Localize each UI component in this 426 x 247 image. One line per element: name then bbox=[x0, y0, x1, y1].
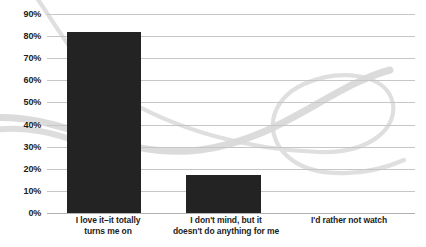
gridline-baseline-0 bbox=[47, 213, 415, 214]
y-tick-label-30: 30% bbox=[0, 143, 41, 152]
bar-category-1 bbox=[67, 32, 141, 213]
y-tick-label-10: 10% bbox=[0, 187, 41, 196]
y-tick-label-80: 80% bbox=[0, 32, 41, 41]
x-axis: I love it–it totally turns me on I don't… bbox=[0, 215, 426, 247]
y-tick-label-60: 60% bbox=[0, 76, 41, 85]
bar-chart: 90% 80% 70% 60% 50% 40% 30% 20% 10% 0% I… bbox=[0, 0, 426, 247]
y-tick-label-40: 40% bbox=[0, 121, 41, 130]
bar-category-2 bbox=[186, 175, 261, 213]
x-category-label-3-line-1: I'd rather not watch bbox=[285, 215, 413, 226]
y-tick-label-50: 50% bbox=[0, 98, 41, 107]
y-tick-label-90: 90% bbox=[0, 10, 41, 19]
y-tick-label-20: 20% bbox=[0, 165, 41, 174]
x-category-label-2-line-1: I don't mind, but it bbox=[152, 215, 300, 226]
x-category-label-2-line-2: doesn't do anything for me bbox=[152, 226, 300, 237]
x-category-label-2: I don't mind, but it doesn't do anything… bbox=[152, 215, 300, 237]
y-tick-label-70: 70% bbox=[0, 54, 41, 63]
bars-layer bbox=[47, 14, 415, 213]
y-axis: 90% 80% 70% 60% 50% 40% 30% 20% 10% 0% bbox=[0, 0, 44, 247]
x-category-label-3: I'd rather not watch bbox=[285, 215, 413, 226]
